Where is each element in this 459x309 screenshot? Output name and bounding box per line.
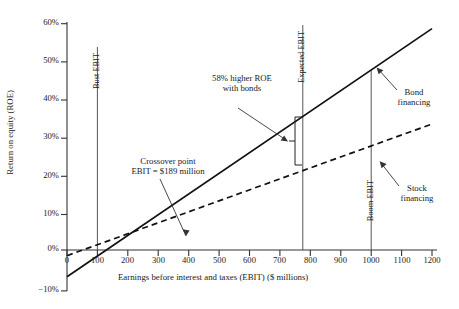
y-tick-label-30: 30% [24, 132, 59, 142]
x-tick-label-1100: 1100 [385, 256, 419, 266]
annotation-higher-roe-line2: with bonds [196, 84, 288, 94]
annotation-higher-roe: 58% higher ROE with bonds [196, 74, 288, 93]
x-tick-label-300: 300 [144, 256, 173, 266]
x-axis-title: Earnings before interest and taxes (EBIT… [118, 273, 308, 283]
annotation-bond-financing: Bond financing [387, 88, 441, 107]
x-tick-label-1200: 1200 [415, 256, 449, 266]
leader-higher-roe [238, 108, 286, 140]
y-axis-title: Return on equity (ROE) [6, 90, 16, 175]
arrowhead-crossover [183, 229, 190, 236]
chart-figure: 60% 50% 40% 30% 20% 10% 0% −10% 0 100 20… [0, 0, 459, 309]
y-tick-label-50: 50% [24, 56, 59, 66]
x-tick-label-800: 800 [296, 256, 325, 266]
series-line-bond-financing [67, 29, 432, 277]
annotation-bond-financing-line2: financing [387, 98, 441, 108]
arrowhead-higher-roe [281, 135, 288, 141]
y-tick-marks [61, 24, 67, 291]
annotation-stock-financing-line2: financing [389, 194, 445, 204]
x-tick-label-400: 400 [174, 256, 203, 266]
annotation-crossover-line2: EBIT = $189 million [108, 167, 228, 177]
annotation-stock-financing: Stock financing [389, 184, 445, 203]
y-tick-label-minus10: −10% [20, 285, 59, 295]
x-tick-label-100: 100 [83, 256, 112, 266]
y-tick-label-0: 0% [24, 244, 59, 254]
series-line-stock-financing [67, 124, 432, 256]
y-tick-label-10: 10% [24, 209, 59, 219]
y-tick-label-60: 60% [24, 18, 59, 28]
vline-label-expected-ebit: Expected EBIT [297, 31, 306, 83]
vline-label-boom-ebit: Boom EBIT [366, 180, 375, 221]
leader-stock-financing [381, 163, 399, 186]
x-tick-label-0: 0 [57, 256, 77, 266]
leader-crossover [160, 179, 186, 236]
x-tick-label-900: 900 [326, 256, 355, 266]
vline-label-bust-ebit: Bust EBIT [92, 53, 101, 89]
x-tick-label-1000: 1000 [354, 256, 388, 266]
x-tick-label-200: 200 [113, 256, 142, 266]
x-tick-label-500: 500 [205, 256, 234, 266]
x-tick-label-700: 700 [265, 256, 294, 266]
annotation-crossover: Crossover point EBIT = $189 million [108, 157, 228, 176]
y-tick-label-40: 40% [24, 94, 59, 104]
x-tick-label-600: 600 [235, 256, 264, 266]
arrowhead-stock-financing [380, 161, 387, 168]
y-tick-label-20: 20% [24, 171, 59, 181]
